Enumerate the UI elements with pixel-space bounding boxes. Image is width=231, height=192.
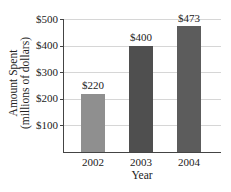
bar-value-2002: $220	[73, 80, 113, 91]
y-axis-label-line-2: (millions of dollars)	[19, 37, 31, 129]
y-tick-label-100: $100	[36, 120, 58, 131]
y-tick	[60, 99, 64, 100]
y-tick-label-400: $400	[36, 40, 58, 51]
bar-chart: Amount Spent (millions of dollars) $500 …	[0, 0, 231, 192]
y-tick	[60, 72, 64, 73]
y-axis-label: Amount Spent (millions of dollars)	[2, 20, 36, 145]
bar-2004	[177, 26, 201, 152]
y-axis-label-line-1: Amount Spent	[7, 37, 19, 129]
y-tick	[60, 19, 64, 20]
y-tick	[60, 46, 64, 47]
bar-value-2003: $400	[121, 32, 161, 43]
y-tick-label-300: $300	[36, 67, 58, 78]
y-tick	[60, 125, 64, 126]
x-axis-label: Year	[117, 169, 167, 181]
x-tick-label-2002: 2002	[73, 156, 113, 168]
bar-value-2004: $473	[169, 13, 209, 24]
plot-area: $220 $400 $473	[63, 19, 221, 153]
y-tick-label-500: $500	[36, 14, 58, 25]
y-tick-label-200: $200	[36, 93, 58, 104]
bar-2003	[129, 46, 153, 152]
x-tick-label-2003: 2003	[121, 156, 161, 168]
bar-2002	[81, 94, 105, 153]
x-tick-label-2004: 2004	[169, 156, 209, 168]
